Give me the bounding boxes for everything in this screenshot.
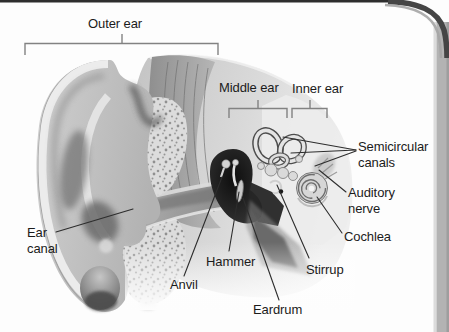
inner-ear-label: Inner ear xyxy=(292,81,343,97)
eardrum-label: Eardrum xyxy=(253,302,302,318)
semicircular-canals-label: Semicircular canals xyxy=(358,139,436,171)
middle-ear-label: Middle ear xyxy=(219,80,279,96)
ear-canal-label: Ear canal xyxy=(27,225,73,257)
outer-ear-bracket xyxy=(25,44,218,56)
cochlea-spiral xyxy=(297,173,328,207)
hammer-label: Hammer xyxy=(206,254,255,270)
ear-anatomy-figure: Outer ear Middle ear Inner ear Ear canal… xyxy=(0,0,449,332)
cochlea-label: Cochlea xyxy=(344,229,391,245)
stirrup-label: Stirrup xyxy=(306,262,344,278)
top-border xyxy=(0,0,392,3)
outer-ear-label: Outer ear xyxy=(88,16,142,32)
anvil-label: Anvil xyxy=(170,277,198,293)
auditory-nerve-label: Auditory nerve xyxy=(348,185,412,217)
side-band-highlight xyxy=(434,22,437,332)
